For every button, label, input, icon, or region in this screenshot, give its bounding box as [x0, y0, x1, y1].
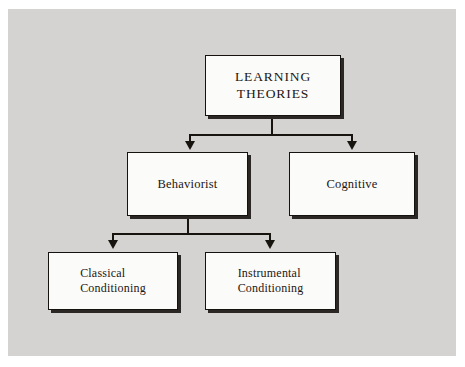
arrowhead-instrumental-icon [265, 240, 275, 249]
scanned-page: LEARNING THEORIES Behaviorist Cognitive … [0, 0, 465, 367]
node-learning-theories: LEARNING THEORIES [205, 55, 341, 116]
node-instrumental-conditioning-label: Instrumental Conditioning [238, 266, 304, 297]
connector-root-bar [189, 134, 353, 136]
node-behaviorist-label: Behaviorist [158, 176, 218, 192]
node-classical-line1: Classical [80, 266, 125, 280]
node-learning-theories-label: LEARNING THEORIES [235, 69, 311, 102]
node-behaviorist: Behaviorist [127, 152, 248, 216]
node-instrumental-line2: Conditioning [238, 281, 304, 295]
learning-theories-flowchart: LEARNING THEORIES Behaviorist Cognitive … [0, 0, 465, 367]
node-learning-theories-line2: THEORIES [237, 86, 309, 101]
connector-behaviorist-bar [112, 233, 271, 235]
node-cognitive: Cognitive [289, 152, 415, 216]
node-cognitive-label: Cognitive [326, 176, 377, 192]
node-classical-conditioning-label: Classical Conditioning [80, 266, 146, 297]
node-classical-conditioning: Classical Conditioning [48, 252, 178, 310]
arrowhead-behaviorist-icon [185, 141, 195, 150]
arrowhead-classical-icon [108, 240, 118, 249]
node-instrumental-conditioning: Instrumental Conditioning [205, 252, 336, 310]
arrowhead-cognitive-icon [347, 141, 357, 150]
node-instrumental-line1: Instrumental [238, 266, 301, 280]
node-learning-theories-line1: LEARNING [235, 69, 311, 84]
node-classical-line2: Conditioning [80, 281, 146, 295]
